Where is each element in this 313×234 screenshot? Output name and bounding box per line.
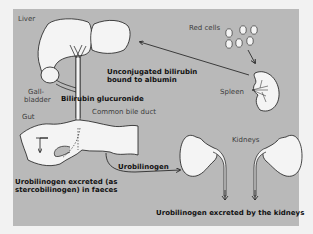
bilirubin-metabolism-diagram — [0, 0, 313, 234]
unconjugated-bilirubin-label-line1: Unconjugated bilirubin — [107, 68, 197, 76]
ureters — [213, 148, 266, 196]
gut-label: Gut — [22, 113, 35, 121]
faeces-excretion-label-line1: Urobilinogen excreted (as — [15, 178, 117, 186]
unconjugated-bilirubin-label-line2: bound to albumin — [107, 76, 177, 84]
common-bile-duct-label: Common bile duct — [92, 108, 156, 116]
red-cells-shape — [226, 26, 257, 48]
red-cells-label: Red cells — [189, 24, 220, 32]
spleen-label: Spleen — [220, 88, 244, 96]
gallbladder-label-line2: bladder — [24, 96, 51, 104]
bilirubin-glucuronide-label: Bilirubin glucuronide — [61, 95, 144, 103]
kidneys-label: Kidneys — [232, 136, 260, 144]
urobilinogen-label: Urobilinogen — [118, 163, 169, 171]
gallbladder-label-line1: Gall- — [28, 88, 44, 96]
red-cells-to-spleen-arrow — [248, 50, 255, 63]
spleen-shape — [254, 72, 280, 111]
faeces-excretion-label-line2: stercobilinogen) in faeces — [15, 186, 117, 194]
liver-label: Liver — [18, 15, 35, 23]
gut-shape — [20, 120, 138, 166]
kidney-excretion-label: Urobilinogen excreted by the kidneys — [156, 209, 304, 217]
